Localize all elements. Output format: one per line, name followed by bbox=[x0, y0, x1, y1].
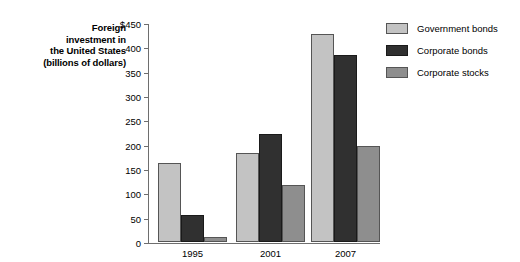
legend-swatch bbox=[386, 45, 408, 56]
legend-item: Government bonds bbox=[386, 17, 516, 39]
bar bbox=[204, 237, 227, 242]
y-tick-label: 350 bbox=[125, 67, 141, 78]
y-tick-label: 100 bbox=[125, 189, 141, 200]
bar bbox=[282, 185, 305, 242]
legend-swatch bbox=[386, 23, 408, 34]
x-axis-line bbox=[148, 243, 380, 244]
bar bbox=[259, 134, 282, 242]
y-tick-label: 400 bbox=[125, 43, 141, 54]
legend: Government bondsCorporate bondsCorporate… bbox=[386, 17, 516, 83]
bar-group bbox=[158, 23, 227, 242]
bar-chart-figure: Foreign investment in the United States … bbox=[0, 0, 520, 262]
legend-label: Corporate bonds bbox=[417, 45, 488, 56]
y-tick-label: 150 bbox=[125, 165, 141, 176]
y-tick-label: 0 bbox=[136, 238, 141, 249]
chart-title: Foreign investment in the United States … bbox=[14, 22, 126, 68]
x-axis-label: 2007 bbox=[311, 248, 380, 259]
bar-group bbox=[236, 23, 305, 242]
legend-label: Corporate stocks bbox=[417, 67, 489, 78]
legend-item: Corporate stocks bbox=[386, 61, 516, 83]
legend-item: Corporate bonds bbox=[386, 39, 516, 61]
y-tick-label: 250 bbox=[125, 116, 141, 127]
plot-area: 050100150200250300350400$450 19952001200… bbox=[148, 24, 380, 243]
y-tick-mark bbox=[144, 121, 149, 122]
y-tick-label: 300 bbox=[125, 92, 141, 103]
y-axis-line bbox=[148, 24, 149, 244]
legend-swatch bbox=[386, 67, 408, 78]
bar bbox=[158, 163, 181, 242]
y-tick-label: $450 bbox=[120, 19, 141, 30]
y-tick-mark bbox=[144, 24, 149, 25]
chart-title-line-3: the United States bbox=[14, 45, 126, 57]
y-tick-mark bbox=[144, 73, 149, 74]
x-axis-label: 1995 bbox=[158, 248, 227, 259]
y-tick-mark bbox=[144, 219, 149, 220]
y-tick-label: 200 bbox=[125, 140, 141, 151]
chart-title-line-2: investment in bbox=[14, 34, 126, 46]
bar-group bbox=[311, 23, 380, 242]
chart-title-line-4: (billions of dollars) bbox=[14, 57, 126, 69]
bar bbox=[334, 55, 357, 242]
bar bbox=[357, 146, 380, 242]
y-tick-mark bbox=[144, 243, 149, 244]
y-tick-label: 50 bbox=[130, 213, 141, 224]
bar bbox=[311, 34, 334, 242]
bar bbox=[236, 153, 259, 242]
x-axis-label: 2001 bbox=[236, 248, 305, 259]
chart-title-line-1: Foreign bbox=[14, 22, 126, 34]
y-tick-mark bbox=[144, 48, 149, 49]
y-tick-mark bbox=[144, 194, 149, 195]
legend-label: Government bonds bbox=[417, 23, 498, 34]
bar bbox=[181, 215, 204, 242]
y-tick-mark bbox=[144, 170, 149, 171]
y-tick-mark bbox=[144, 97, 149, 98]
y-tick-mark bbox=[144, 146, 149, 147]
